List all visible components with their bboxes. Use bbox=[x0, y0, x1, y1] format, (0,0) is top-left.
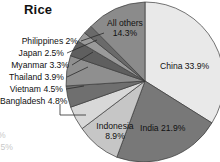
pie-label-myanmar: Myanmar 3.3% bbox=[0, 60, 69, 70]
pie-label-all-others-line2: 14.3% bbox=[96, 29, 154, 39]
pie-label-indonesia: Indonesia 8.9% bbox=[88, 122, 142, 141]
pie-label-all-others: All others 14.3% bbox=[96, 19, 154, 38]
clipped-text-fragment-top: % bbox=[0, 130, 6, 140]
pie-label-china-line1: China 33.9% bbox=[160, 62, 209, 72]
pie-chart-figure: Rice bbox=[0, 0, 220, 162]
pie-label-bangladesh: Bangladesh 4.8% bbox=[0, 96, 57, 106]
pie-label-india: India 21.9% bbox=[140, 124, 185, 134]
pie-label-thailand: Thailand 3.9% bbox=[0, 72, 64, 82]
pie-label-indonesia-line2: 8.9% bbox=[88, 132, 142, 142]
pie-label-philippines: Philippines 2% bbox=[0, 36, 78, 46]
pie-label-vietnam: Vietnam 4.5% bbox=[0, 84, 63, 94]
pie-label-china: China 33.9% bbox=[160, 62, 209, 72]
pie-label-japan: Japan 2.5% bbox=[0, 48, 64, 58]
clipped-text-fragment-bottom: .5% bbox=[0, 142, 13, 152]
pie-label-india-line1: India 21.9% bbox=[140, 124, 185, 134]
